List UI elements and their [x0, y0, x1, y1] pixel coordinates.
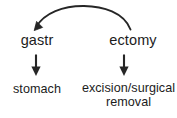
- diagram-canvas: gastr ectomy stomach excision/surgical r…: [0, 0, 177, 118]
- morpheme-label-gastr: gastr: [0, 33, 74, 48]
- gloss-label-stomach: stomach: [0, 83, 74, 96]
- gloss-label-excision-surgical-removal: excision/surgical removal: [80, 82, 177, 109]
- gloss-line-1: excision/surgical: [82, 81, 175, 95]
- morpheme-label-ectomy: ectomy: [89, 33, 177, 48]
- ectomy-to-excision-arrow: [119, 55, 128, 77]
- gloss-line-2: removal: [80, 96, 177, 109]
- gastr-to-stomach-arrow: [31, 55, 40, 77]
- ectomy-to-gastr-curved-arrow: [34, 6, 130, 31]
